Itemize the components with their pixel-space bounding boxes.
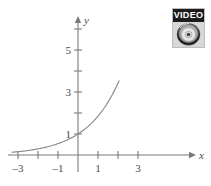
y-axis-label: y	[83, 14, 89, 26]
x-tick-label--1: –1	[52, 162, 64, 174]
x-axis-arrow-icon	[189, 152, 196, 158]
video-badge[interactable]: VIDEO	[172, 8, 205, 48]
y-tick-label-5: 5	[66, 44, 72, 56]
y-tick-label-3: 3	[66, 86, 72, 98]
y-tick-label-1: 1	[66, 128, 72, 140]
figure-container: –3 –1 1 3 1 3 5 y x VIDEO	[0, 0, 211, 186]
x-axis-label: x	[198, 149, 204, 161]
badge-video-word: VIDEO	[173, 9, 204, 22]
y-axis-arrow-icon	[75, 16, 81, 23]
x-tick-label-1: 1	[95, 162, 101, 174]
dvd-disc-icon	[176, 23, 201, 46]
x-tick-label--3: –3	[12, 162, 25, 174]
x-tick-label-3: 3	[135, 162, 141, 174]
